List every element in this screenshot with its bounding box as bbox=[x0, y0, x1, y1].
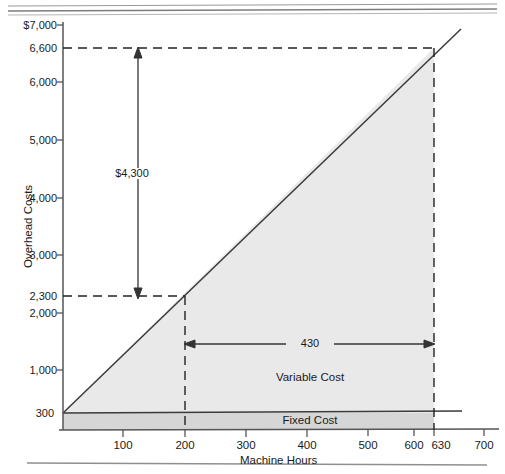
y-tick-label-300: 300 bbox=[36, 408, 54, 419]
fixed-cost-region bbox=[63, 413, 434, 430]
top-rule-group bbox=[8, 4, 497, 15]
x-tick-label-100: 100 bbox=[103, 440, 143, 452]
x-axis bbox=[59, 429, 499, 430]
y-tick-marks bbox=[57, 25, 63, 370]
fixed-cost-label: Fixed Cost bbox=[250, 415, 370, 427]
x-tick-label-630: 630 bbox=[421, 440, 461, 452]
chart-figure: $7,000 6,600 6,000 5,000 4,000 3,000 2,3… bbox=[0, 0, 505, 474]
chart-canvas bbox=[0, 0, 505, 474]
x-tick-label-700: 700 bbox=[464, 440, 504, 452]
y-tick-label-2300: 2,300 bbox=[29, 291, 57, 302]
variable-cost-label: Variable Cost bbox=[250, 372, 370, 384]
y-tick-label-5000: 5,000 bbox=[29, 135, 57, 146]
y-axis-title: Overhead Costs bbox=[22, 185, 34, 268]
x-axis-title: Machine Hours bbox=[240, 455, 317, 467]
y-tick-label-6000: 6,000 bbox=[29, 77, 57, 88]
variable-cost-region bbox=[63, 48, 434, 413]
cost-delta-label: $4,300 bbox=[94, 168, 170, 179]
y-tick-label-1000: 1,000 bbox=[29, 365, 57, 376]
x-tick-label-300: 300 bbox=[226, 440, 266, 452]
hours-delta-label: 430 bbox=[286, 338, 334, 349]
x-tick-label-400: 400 bbox=[287, 440, 327, 452]
x-tick-label-500: 500 bbox=[348, 440, 388, 452]
y-tick-label-2000: 2,000 bbox=[29, 308, 57, 319]
y-tick-label-7000: $7,000 bbox=[23, 20, 57, 31]
x-tick-label-200: 200 bbox=[165, 440, 205, 452]
y-tick-label-6600: 6,600 bbox=[29, 43, 57, 54]
